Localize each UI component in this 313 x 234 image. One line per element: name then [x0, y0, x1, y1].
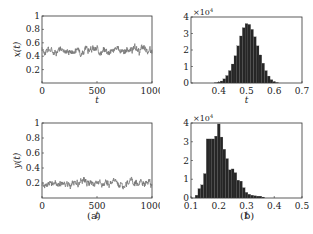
y-tick-label: 0.6: [26, 38, 41, 48]
histogram-bar: [240, 36, 243, 83]
histogram-bar: [223, 149, 226, 198]
data-series-line: [42, 44, 152, 57]
histogram-bar: [242, 28, 245, 83]
histogram-bar: [245, 192, 248, 198]
x-axis-label: t: [245, 95, 249, 105]
y-tick-label: 0.4: [26, 51, 41, 61]
y-tick-label: 2: [183, 156, 189, 166]
histogram-bar: [251, 29, 254, 83]
y-tick-label: 3: [183, 137, 189, 147]
x-tick-label: 0.4: [267, 201, 282, 211]
chart-bottom-left: 050010000.20.40.60.81ty(t): [0, 110, 160, 220]
histogram-bar: [267, 76, 270, 83]
histogram-bar: [251, 195, 254, 198]
histogram-bar: [245, 24, 248, 83]
histogram-bar: [253, 196, 256, 198]
x-tick-label: 0: [39, 201, 45, 211]
histogram-bar: [231, 64, 234, 83]
y-multiplier: ×104: [193, 113, 213, 123]
y-axis-label: x(t): [12, 41, 22, 57]
chart-top-left: 050010000.20.40.60.81tx(t): [0, 0, 160, 110]
histogram-bar: [220, 137, 223, 198]
histogram-bar: [223, 79, 226, 83]
x-tick-label: 0.5: [295, 201, 310, 211]
histogram-bar: [248, 24, 251, 83]
y-tick-label: 0.2: [26, 65, 40, 75]
histogram-bar: [228, 170, 231, 198]
x-tick-label: 0: [39, 86, 45, 96]
histogram-bar: [217, 82, 220, 83]
x-tick-label: 0.4: [212, 86, 227, 96]
histogram-bar: [259, 55, 262, 83]
y-tick-label: 0.2: [26, 178, 40, 188]
histogram-bar: [195, 195, 198, 198]
histogram-bar: [273, 82, 276, 83]
histogram-bar: [201, 185, 204, 198]
subfigure-label-b: (b): [240, 210, 254, 221]
histogram-bar: [242, 188, 245, 198]
histogram-bar: [220, 81, 223, 83]
histogram-bar: [256, 196, 259, 198]
histogram-bar: [240, 181, 243, 198]
histogram-bar: [234, 173, 237, 198]
histogram-bar: [265, 71, 268, 83]
y-tick-label: 0: [183, 193, 189, 203]
histogram-bar: [203, 174, 206, 198]
y-tick-label: 3: [183, 29, 189, 39]
histogram-bar: [226, 159, 229, 198]
y-tick-label: 0.8: [26, 133, 41, 143]
x-tick-label: 0.6: [267, 86, 282, 96]
histogram-bar: [237, 46, 240, 83]
histogram-bar: [259, 196, 262, 198]
histogram-bar: [237, 180, 240, 198]
x-axis-label: t: [95, 95, 99, 105]
histogram-bar: [209, 139, 212, 198]
histogram-bar: [215, 136, 218, 198]
subfigure-label-a: (a): [87, 210, 101, 221]
histogram-bar: [226, 76, 229, 83]
y-tick-label: 0.4: [26, 163, 41, 173]
histogram-bar: [206, 139, 209, 198]
histogram-bar: [248, 194, 251, 198]
y-tick-label: 0.6: [26, 148, 41, 158]
histogram-x: 0.40.50.60.701234t×104: [160, 0, 313, 110]
histogram-bar: [212, 139, 215, 198]
line-plot-x: 050010000.20.40.60.81tx(t): [0, 0, 160, 110]
data-series-line: [42, 177, 152, 189]
y-tick-label: 2: [183, 45, 189, 55]
histogram-bar: [231, 169, 234, 198]
histogram-bar: [228, 71, 231, 83]
histogram-bar: [234, 56, 237, 83]
histogram-bar: [262, 197, 265, 198]
x-tick-label: 1000: [141, 201, 160, 211]
line-plot-y: 050010000.20.40.60.81ty(t): [0, 110, 160, 220]
y-tick-label: 1: [183, 62, 189, 72]
histogram-bar: [217, 124, 220, 198]
histogram-bar: [198, 189, 201, 198]
x-tick-label: 0.7: [295, 86, 310, 96]
x-tick-label: 0.2: [212, 201, 226, 211]
y-tick-label: 1: [34, 118, 40, 128]
chart-bottom-right: 0.10.20.30.40.501234t×104: [160, 110, 313, 220]
y-tick-label: 1: [183, 174, 189, 184]
axes-frame: [42, 123, 152, 198]
y-tick-label: 4: [183, 118, 189, 128]
y-tick-label: 0.8: [26, 24, 41, 34]
y-axis-label: y(t): [12, 152, 22, 169]
y-tick-label: 4: [183, 12, 189, 22]
x-tick-label: 1000: [141, 86, 160, 96]
y-multiplier: ×104: [193, 7, 213, 17]
chart-top-right: 0.40.50.60.701234t×104: [160, 0, 313, 110]
histogram-bar: [262, 63, 265, 83]
y-tick-label: 1: [34, 11, 40, 21]
histogram-bar: [270, 80, 273, 83]
histogram-y: 0.10.20.30.40.501234t×104: [160, 110, 313, 220]
histogram-bar: [256, 46, 259, 83]
histogram-bar: [253, 37, 256, 83]
y-tick-label: 0: [183, 78, 189, 88]
